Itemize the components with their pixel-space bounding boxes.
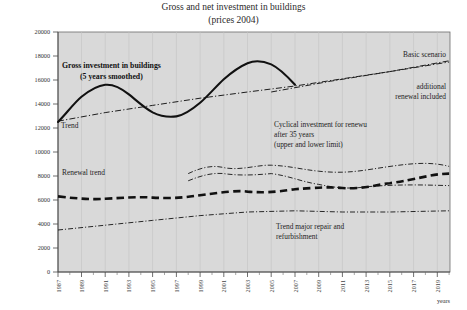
- x-tick-label: 2013: [363, 280, 370, 292]
- y-tick-label: 14000: [35, 100, 50, 107]
- y-tick-label: 2000: [38, 244, 50, 251]
- y-tick-label: 10000: [35, 148, 50, 155]
- annotation-cyclical-line3: (upper and lower limit): [274, 140, 343, 149]
- y-tick-label: 8000: [38, 172, 50, 179]
- annotation-cyclical-line2: after 35 years: [274, 130, 314, 139]
- x-tick-label: 1989: [78, 280, 85, 292]
- x-tick-label: 1999: [197, 280, 204, 292]
- x-tick-label: 1995: [149, 280, 156, 292]
- x-tick-label: 2001: [220, 280, 227, 292]
- annotation-renewal-trend: Renewal trend: [62, 168, 105, 177]
- chart-figure: Gross and net investment in buildings (p…: [0, 0, 467, 310]
- x-axis-tick-labels: 1987 1989 1991 1993 1995 1997 1999 2001 …: [55, 280, 441, 292]
- y-tick-label: 0: [47, 268, 50, 275]
- x-tick-label: 1993: [125, 280, 132, 292]
- x-tick-label: 2015: [386, 280, 393, 292]
- annotation-cyclical-line1: Cyclical investment for renewu: [274, 120, 367, 129]
- x-tick-label: 2007: [292, 280, 299, 292]
- x-tick-label: 2005: [268, 280, 275, 292]
- y-axis-ticks: [53, 32, 58, 272]
- y-tick-label: 6000: [38, 196, 50, 203]
- x-tick-label: 2017: [410, 280, 417, 292]
- x-tick-label: 1997: [173, 280, 180, 292]
- x-tick-label: 2009: [315, 280, 322, 292]
- x-tick-label: 1991: [102, 280, 109, 292]
- x-tick-label: 2003: [244, 280, 251, 292]
- annotation-major-repair-line1: Trend major repair and: [276, 222, 344, 231]
- y-axis-tick-labels: 0 2000 4000 6000 8000 10000 12000 14000 …: [35, 28, 50, 275]
- x-tick-label: 2011: [339, 280, 346, 292]
- y-tick-label: 20000: [35, 28, 50, 35]
- annotation-additional-line1: additional: [416, 82, 446, 91]
- annotation-basic-scenario: Basic scenario: [403, 50, 446, 59]
- chart-canvas: 0 2000 4000 6000 8000 10000 12000 14000 …: [0, 0, 467, 310]
- y-tick-label: 18000: [35, 52, 50, 59]
- x-tick-label: 1987: [55, 280, 62, 292]
- y-tick-label: 16000: [35, 76, 50, 83]
- annotation-gross-investment-line2: (5 years smoothed): [80, 72, 143, 81]
- y-tick-label: 4000: [38, 220, 50, 227]
- x-tick-label: 2019: [434, 280, 441, 292]
- x-axis-minor-ticks: [70, 272, 449, 275]
- annotation-gross-investment-line1: Gross investment in buildings: [62, 61, 161, 70]
- annotation-major-repair-line2: refurbishment: [276, 232, 318, 241]
- x-axis-title: years: [437, 297, 451, 304]
- x-axis-ticks: [58, 272, 437, 277]
- annotation-trend: Trend: [61, 121, 79, 130]
- annotation-additional-line2: renewal included: [395, 92, 446, 101]
- y-tick-label: 12000: [35, 124, 50, 131]
